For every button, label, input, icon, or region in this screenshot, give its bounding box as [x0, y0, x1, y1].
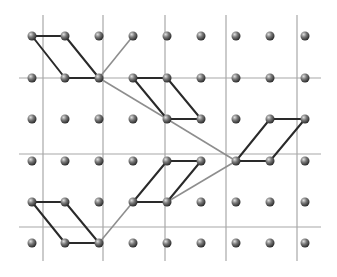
lattice-sphere [129, 115, 138, 124]
lattice-sphere [197, 115, 206, 124]
lattice-sphere [266, 32, 275, 41]
lattice-sphere [266, 157, 275, 166]
lattice-sphere [129, 157, 138, 166]
lattice-sphere [61, 74, 70, 83]
lattice-sphere [129, 32, 138, 41]
cell-lower-middle [133, 161, 201, 202]
lattice-sphere [163, 74, 172, 83]
lattice-sphere [232, 32, 241, 41]
lattice-sphere [301, 157, 310, 166]
connector-vectors [99, 36, 236, 243]
lattice-sphere [28, 198, 37, 207]
cell-bottom-left [32, 202, 99, 243]
lattice-sphere [61, 115, 70, 124]
lattice-canvas [0, 0, 337, 277]
lattice-sphere [232, 157, 241, 166]
lattice-sphere [301, 198, 310, 207]
lattice-sphere [266, 74, 275, 83]
lattice-sphere [95, 239, 104, 248]
lattice-sphere [266, 198, 275, 207]
lattice-sphere [95, 74, 104, 83]
lattice-sphere [232, 239, 241, 248]
lattice-sphere [61, 157, 70, 166]
connector-5 [99, 202, 133, 243]
lattice-sphere [197, 74, 206, 83]
lattice-sphere [163, 157, 172, 166]
lattice-sphere [61, 239, 70, 248]
cell-upper-middle [133, 78, 201, 119]
unit-cells [32, 36, 305, 243]
lattice-sphere [61, 32, 70, 41]
lattice-sphere [28, 239, 37, 248]
lattice-sphere [163, 115, 172, 124]
lattice-sphere [197, 198, 206, 207]
lattice-sphere [61, 198, 70, 207]
lattice-sphere [266, 239, 275, 248]
lattice-diagram [0, 0, 337, 277]
lattice-spheres [28, 32, 310, 248]
lattice-sphere [28, 74, 37, 83]
lattice-sphere [197, 239, 206, 248]
lattice-sphere [163, 239, 172, 248]
connector-1 [99, 36, 133, 78]
lattice-sphere [95, 198, 104, 207]
lattice-sphere [129, 198, 138, 207]
lattice-sphere [232, 74, 241, 83]
lattice-sphere [197, 32, 206, 41]
lattice-sphere [197, 157, 206, 166]
lattice-sphere [163, 198, 172, 207]
lattice-sphere [95, 115, 104, 124]
connector-2 [99, 78, 167, 119]
lattice-sphere [232, 198, 241, 207]
lattice-sphere [28, 115, 37, 124]
lattice-sphere [301, 74, 310, 83]
grid-lines [19, 15, 321, 261]
lattice-sphere [95, 157, 104, 166]
lattice-sphere [28, 157, 37, 166]
cell-right [236, 119, 305, 161]
lattice-sphere [301, 115, 310, 124]
lattice-sphere [301, 32, 310, 41]
lattice-sphere [266, 115, 275, 124]
lattice-sphere [301, 239, 310, 248]
cell-top-left [32, 36, 99, 78]
lattice-sphere [232, 115, 241, 124]
lattice-sphere [95, 32, 104, 41]
lattice-sphere [28, 32, 37, 41]
lattice-sphere [163, 32, 172, 41]
lattice-sphere [129, 239, 138, 248]
lattice-sphere [129, 74, 138, 83]
